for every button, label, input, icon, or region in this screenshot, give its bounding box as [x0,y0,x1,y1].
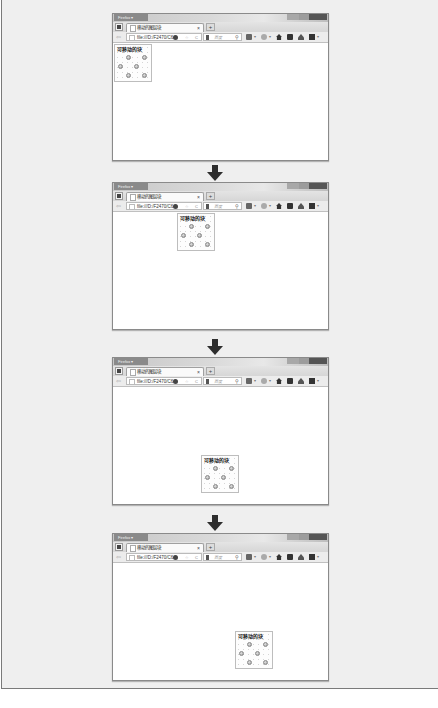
url-bar[interactable]: file:///D:/F2470/C6/ ☆ C [126,553,202,561]
close-window-button[interactable] [309,183,327,189]
movable-block[interactable]: 可移动的块 [114,44,152,82]
tab-active[interactable]: 移动的图层块 × [126,543,204,552]
new-tab-button[interactable]: + [206,192,215,200]
movable-block[interactable]: 可移动的块 [177,213,215,251]
maximize-button[interactable] [299,14,309,20]
reload-button[interactable]: C [195,203,198,210]
downloads-icon[interactable] [246,554,252,560]
chevron-down-icon[interactable]: ▾ [254,378,258,384]
bookmark-star-icon[interactable]: ☆ [185,203,189,210]
reload-button[interactable]: C [195,378,198,385]
movable-block[interactable]: 可移动的块 [201,455,239,493]
tab-groups-icon[interactable] [115,367,123,375]
chevron-down-icon[interactable]: ▾ [269,554,273,560]
upload-icon[interactable] [298,34,304,40]
screenshot-icon[interactable] [287,34,293,40]
maximize-button[interactable] [299,358,309,364]
site-identity-icon[interactable] [129,35,135,41]
close-window-button[interactable] [309,534,327,540]
tab-groups-icon[interactable] [115,543,123,551]
url-bar[interactable]: file:///D:/F2470/C6/ ☆ C [126,377,202,385]
tab-active[interactable]: 移动的图层块 × [126,367,204,376]
back-button[interactable]: ⇦ [116,34,121,40]
maximize-button[interactable] [299,534,309,540]
search-bar[interactable]: 百度 ⚲ [203,202,242,210]
firefox-menu-button[interactable]: Firefox ▾ [114,358,148,365]
new-tab-button[interactable]: + [206,543,215,551]
maximize-button[interactable] [299,183,309,189]
chevron-down-icon[interactable]: ▾ [254,34,258,40]
screenshot-icon[interactable] [287,203,293,209]
chevron-down-icon[interactable]: ▾ [317,378,321,384]
menu-icon[interactable] [309,554,315,560]
search-icon[interactable]: ⚲ [235,554,239,561]
chevron-down-icon[interactable]: ▾ [254,203,258,209]
upload-icon[interactable] [298,554,304,560]
menu-icon[interactable] [309,378,315,384]
chevron-down-icon[interactable]: ▾ [317,203,321,209]
chevron-down-icon[interactable]: ▾ [254,554,258,560]
search-icon[interactable]: ⚲ [235,378,239,385]
close-tab-icon[interactable]: × [197,193,200,201]
minimize-button[interactable] [287,358,299,364]
upload-icon[interactable] [298,203,304,209]
search-bar[interactable]: 百度 ⚲ [203,377,242,385]
new-tab-button[interactable]: + [206,23,215,31]
home-icon[interactable] [276,34,282,40]
bookmark-star-icon[interactable]: ☆ [185,34,189,41]
menu-icon[interactable] [309,203,315,209]
search-engine-icon[interactable] [206,204,209,209]
tab-groups-icon[interactable] [115,23,123,31]
chevron-down-icon[interactable]: ▾ [269,203,273,209]
firefox-menu-button[interactable]: Firefox ▾ [114,534,148,541]
site-identity-icon[interactable] [129,379,135,385]
firefox-menu-button[interactable]: Firefox ▾ [114,14,148,21]
greasemonkey-icon[interactable] [261,378,267,384]
chevron-down-icon[interactable]: ▾ [317,554,321,560]
downloads-icon[interactable] [246,378,252,384]
home-icon[interactable] [276,554,282,560]
greasemonkey-icon[interactable] [261,34,267,40]
search-bar[interactable]: 百度 ⚲ [203,553,242,561]
tab-groups-icon[interactable] [115,192,123,200]
downloads-icon[interactable] [246,203,252,209]
minimize-button[interactable] [287,534,299,540]
back-button[interactable]: ⇦ [116,378,121,384]
close-tab-icon[interactable]: × [197,368,200,376]
back-button[interactable]: ⇦ [116,203,121,209]
minimize-button[interactable] [287,14,299,20]
chevron-down-icon[interactable]: ▾ [269,34,273,40]
chevron-down-icon[interactable]: ▾ [317,34,321,40]
reload-button[interactable]: C [195,34,198,41]
home-icon[interactable] [276,378,282,384]
back-button[interactable]: ⇦ [116,554,121,560]
screenshot-icon[interactable] [287,378,293,384]
movable-block[interactable]: 可移动的块 [235,631,273,669]
url-bar[interactable]: file:///D:/F2470/C6/ ☆ C [126,33,202,41]
search-engine-icon[interactable] [206,35,209,40]
minimize-button[interactable] [287,183,299,189]
reload-button[interactable]: C [195,554,198,561]
close-window-button[interactable] [309,358,327,364]
search-bar[interactable]: 百度 ⚲ [203,33,242,41]
close-window-button[interactable] [309,14,327,20]
close-tab-icon[interactable]: × [197,544,200,552]
home-icon[interactable] [276,203,282,209]
tab-active[interactable]: 移动的图层块 × [126,192,204,201]
bookmark-star-icon[interactable]: ☆ [185,554,189,561]
chevron-down-icon[interactable]: ▾ [269,378,273,384]
site-identity-icon[interactable] [129,204,135,210]
new-tab-button[interactable]: + [206,367,215,375]
search-engine-icon[interactable] [206,555,209,560]
firefox-menu-button[interactable]: Firefox ▾ [114,183,148,190]
site-identity-icon[interactable] [129,555,135,561]
close-tab-icon[interactable]: × [197,24,200,32]
downloads-icon[interactable] [246,34,252,40]
tab-active[interactable]: 移动的图层块 × [126,23,204,32]
bookmark-star-icon[interactable]: ☆ [185,378,189,385]
screenshot-icon[interactable] [287,554,293,560]
url-bar[interactable]: file:///D:/F2470/C6/ ☆ C [126,202,202,210]
search-icon[interactable]: ⚲ [235,34,239,41]
greasemonkey-icon[interactable] [261,554,267,560]
search-engine-icon[interactable] [206,379,209,384]
